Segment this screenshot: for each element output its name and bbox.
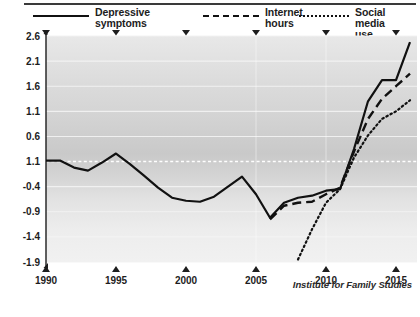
legend-label-internet-hours: Internet hours	[265, 7, 303, 29]
svg-text:-0.9: -0.9	[23, 206, 41, 217]
plot-background	[46, 36, 417, 262]
svg-text:1995: 1995	[105, 275, 128, 286]
legend-line-dashed-icon	[203, 15, 259, 17]
chart-figure: Depressive symptoms Internet hours Socia…	[0, 0, 420, 317]
legend-line-dotted-icon	[299, 15, 349, 17]
svg-text:1.6: 1.6	[26, 81, 40, 92]
header-divider	[24, 3, 416, 5]
svg-text:2.6: 2.6	[26, 31, 40, 42]
svg-text:1.1: 1.1	[26, 156, 40, 167]
y-axis: 2.62.11.61.10.61.1-0.4-0.9-1.4-1.9	[23, 30, 48, 269]
chart-plot-container: 2.62.11.61.10.61.1-0.4-0.9-1.4-1.9 19901…	[0, 30, 420, 292]
svg-text:-1.4: -1.4	[23, 231, 41, 242]
svg-text:1.1: 1.1	[26, 106, 40, 117]
svg-text:-0.4: -0.4	[23, 181, 41, 192]
svg-text:0.6: 0.6	[26, 131, 40, 142]
chart-svg: 2.62.11.61.10.61.1-0.4-0.9-1.4-1.9 19901…	[0, 30, 420, 292]
svg-text:-1.9: -1.9	[23, 257, 41, 268]
chart-credit: Institute for Family Studies	[293, 279, 412, 290]
legend-line-solid-icon	[33, 15, 89, 17]
svg-text:1990: 1990	[35, 275, 58, 286]
svg-text:2.1: 2.1	[26, 56, 40, 67]
svg-text:2000: 2000	[175, 275, 198, 286]
svg-text:2005: 2005	[245, 275, 268, 286]
legend-label-depressive-symptoms: Depressive symptoms	[95, 7, 150, 29]
